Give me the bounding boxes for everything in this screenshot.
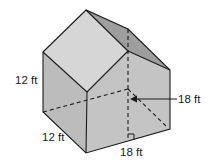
label-depth: 12 ft (42, 131, 65, 143)
house-prism-diagram: 12 ft 12 ft 18 ft 18 ft (0, 0, 214, 166)
label-total-height: 18 ft (178, 93, 201, 105)
label-left-height: 12 ft (15, 74, 38, 86)
label-width: 18 ft (120, 146, 143, 158)
